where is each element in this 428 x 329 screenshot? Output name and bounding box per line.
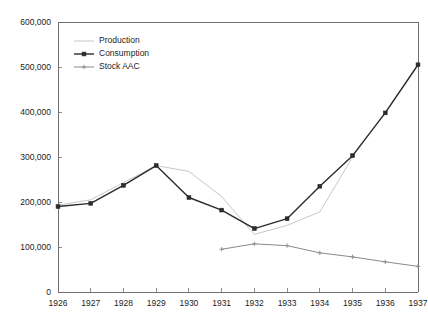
y-axis-tick-label: 200,000 xyxy=(20,197,51,207)
y-axis-tick-label: 600,000 xyxy=(20,17,51,27)
x-axis-tick-label: 1932 xyxy=(245,298,264,308)
x-axis-tick-label: 1928 xyxy=(114,298,133,308)
data-point-marker xyxy=(383,111,387,115)
x-axis-labels: 1926192719281929193019311932193319341935… xyxy=(49,298,428,308)
data-point-marker xyxy=(187,196,191,200)
legend-swatch-marker xyxy=(82,52,86,56)
x-axis-tick-label: 1929 xyxy=(147,298,166,308)
data-point-marker xyxy=(252,227,256,231)
data-point-marker xyxy=(351,154,355,158)
data-point-marker xyxy=(416,63,420,67)
data-point-marker xyxy=(122,183,126,187)
y-axis-tick-label: 100,000 xyxy=(20,242,51,252)
x-axis-tick-label: 1937 xyxy=(409,298,428,308)
data-point-marker xyxy=(89,201,93,205)
data-point-marker xyxy=(154,164,158,168)
data-point-marker xyxy=(285,217,289,221)
data-point-marker xyxy=(56,205,60,209)
legend-label: Production xyxy=(99,35,140,45)
y-axis-tick-label: 400,000 xyxy=(20,107,51,117)
x-axis-tick-label: 1934 xyxy=(310,298,329,308)
x-axis-tick-label: 1927 xyxy=(81,298,100,308)
x-axis-tick-label: 1935 xyxy=(343,298,362,308)
x-axis-tick-label: 1931 xyxy=(212,298,231,308)
x-axis-tick-label: 1933 xyxy=(278,298,297,308)
legend-label: Stock AAC xyxy=(99,61,140,71)
line-chart: 0100,000200,000300,000400,000500,000600,… xyxy=(0,0,428,329)
x-axis-tick-label: 1936 xyxy=(376,298,395,308)
y-axis-tick-label: 300,000 xyxy=(20,152,51,162)
legend-label: Consumption xyxy=(99,48,149,58)
data-point-marker xyxy=(220,208,224,212)
chart-container: 0100,000200,000300,000400,000500,000600,… xyxy=(0,0,428,329)
y-axis-tick-label: 0 xyxy=(46,287,51,297)
y-axis-labels: 0100,000200,000300,000400,000500,000600,… xyxy=(20,17,51,297)
y-axis-tick-label: 500,000 xyxy=(20,62,51,72)
data-point-marker xyxy=(318,184,322,188)
x-axis-tick-label: 1926 xyxy=(49,298,68,308)
x-axis-tick-label: 1930 xyxy=(179,298,198,308)
